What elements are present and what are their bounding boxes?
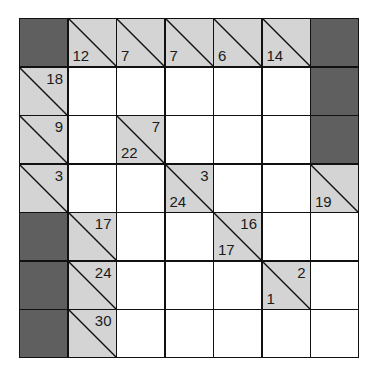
blocked-cell: [20, 310, 67, 357]
across-clue: 16: [240, 215, 257, 232]
clue-cell: 14: [263, 19, 310, 66]
empty-cell[interactable]: [263, 165, 310, 212]
empty-cell[interactable]: [311, 262, 358, 309]
empty-cell[interactable]: [214, 68, 261, 115]
empty-cell[interactable]: [166, 262, 213, 309]
clue-cell: 324: [166, 165, 213, 212]
clue-cell: 30: [69, 310, 116, 357]
clue-cell: 1617: [214, 213, 261, 260]
across-clue: 17: [95, 215, 112, 232]
clue-cell: 12: [69, 19, 116, 66]
empty-cell[interactable]: [117, 310, 164, 357]
empty-cell[interactable]: [117, 213, 164, 260]
down-clue: 24: [170, 193, 187, 210]
clue-cell: 9: [20, 116, 67, 163]
empty-cell[interactable]: [214, 310, 261, 357]
down-clue: 17: [218, 241, 235, 258]
clue-cell: 18: [20, 68, 67, 115]
empty-cell[interactable]: [69, 68, 116, 115]
empty-cell[interactable]: [166, 310, 213, 357]
clue-cell: 722: [117, 116, 164, 163]
across-clue: 3: [200, 167, 208, 184]
blocked-cell: [311, 116, 358, 163]
empty-cell[interactable]: [311, 310, 358, 357]
empty-cell[interactable]: [117, 262, 164, 309]
empty-cell[interactable]: [214, 165, 261, 212]
clue-cell: 7: [166, 19, 213, 66]
empty-cell[interactable]: [263, 213, 310, 260]
down-clue: 6: [218, 47, 226, 64]
empty-cell[interactable]: [263, 310, 310, 357]
empty-cell[interactable]: [263, 68, 310, 115]
blocked-cell: [311, 19, 358, 66]
empty-cell[interactable]: [166, 68, 213, 115]
empty-cell[interactable]: [214, 116, 261, 163]
clue-cell: 7: [117, 19, 164, 66]
empty-cell[interactable]: [117, 165, 164, 212]
clue-cell: 24: [69, 262, 116, 309]
clue-cell: 3: [20, 165, 67, 212]
empty-cell[interactable]: [69, 116, 116, 163]
across-clue: 30: [95, 312, 112, 329]
empty-cell[interactable]: [311, 213, 358, 260]
down-clue: 7: [170, 47, 178, 64]
blocked-cell: [20, 213, 67, 260]
empty-cell[interactable]: [166, 213, 213, 260]
clue-cell: 6: [214, 19, 261, 66]
across-clue: 18: [46, 70, 63, 87]
down-clue: 19: [315, 193, 332, 210]
blocked-cell: [311, 68, 358, 115]
down-clue: 12: [73, 47, 90, 64]
clue-cell: 21: [263, 262, 310, 309]
kakuro-grid: 1277614189722332419171617242130: [19, 18, 359, 358]
across-clue: 24: [95, 264, 112, 281]
clue-cell: 19: [311, 165, 358, 212]
blocked-cell: [20, 262, 67, 309]
empty-cell[interactable]: [263, 116, 310, 163]
down-clue: 7: [121, 47, 129, 64]
across-clue: 7: [152, 118, 160, 135]
down-clue: 22: [121, 144, 138, 161]
blocked-cell: [20, 19, 67, 66]
empty-cell[interactable]: [117, 68, 164, 115]
empty-cell[interactable]: [69, 165, 116, 212]
across-clue: 2: [297, 264, 305, 281]
across-clue: 9: [55, 118, 63, 135]
empty-cell[interactable]: [166, 116, 213, 163]
empty-cell[interactable]: [214, 262, 261, 309]
down-clue: 1: [267, 290, 275, 307]
clue-cell: 17: [69, 213, 116, 260]
down-clue: 14: [267, 47, 284, 64]
across-clue: 3: [55, 167, 63, 184]
